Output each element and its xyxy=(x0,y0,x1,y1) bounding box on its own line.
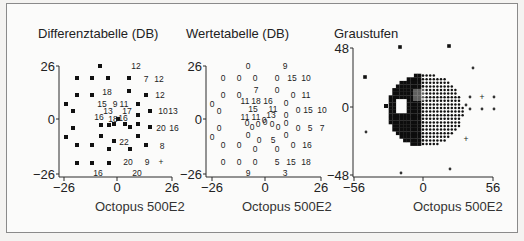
gray-cell xyxy=(443,78,446,81)
gray-cell xyxy=(436,92,439,95)
defect-square-marker xyxy=(148,125,152,129)
gray-cell xyxy=(436,89,439,92)
gray-cell xyxy=(436,128,439,131)
gray-cell xyxy=(433,132,436,135)
gray-cell xyxy=(392,103,396,107)
gray-cell xyxy=(429,96,432,99)
gray-cell xyxy=(403,131,407,135)
gray-cell xyxy=(451,107,454,110)
difference-value: 9 xyxy=(113,99,118,109)
gray-cell xyxy=(458,110,461,113)
defect-square-marker xyxy=(136,113,140,117)
gray-cell xyxy=(443,121,446,124)
gray-cell xyxy=(451,89,454,92)
gray-cell xyxy=(389,113,393,117)
gray-cell xyxy=(447,100,450,103)
gray-cell xyxy=(425,103,428,106)
difference-value: + xyxy=(159,157,164,167)
outlier-dot xyxy=(449,168,452,171)
gray-cell xyxy=(403,121,407,125)
gray-cell xyxy=(458,118,461,121)
gray-cell xyxy=(425,118,428,121)
gray-cell xyxy=(414,110,418,114)
gray-cell xyxy=(400,135,404,139)
gray-cell xyxy=(410,110,414,114)
gray-cell xyxy=(418,139,422,143)
gray-cell xyxy=(403,92,407,96)
gray-cell xyxy=(410,142,414,146)
gray-cell xyxy=(410,85,414,89)
gray-cell xyxy=(436,139,439,142)
gray-cell xyxy=(433,96,436,99)
threshold-value: 0 xyxy=(237,140,242,150)
gray-cell xyxy=(410,135,414,139)
gray-cell xyxy=(407,95,411,99)
outlier-square xyxy=(447,44,451,48)
outlier-dot xyxy=(481,108,484,111)
gray-cell xyxy=(436,132,439,135)
threshold-value: 7 xyxy=(254,85,259,95)
gray-cell xyxy=(392,92,396,96)
gray-cell xyxy=(422,114,425,117)
gray-cell xyxy=(400,121,404,125)
gray-cell xyxy=(400,117,404,121)
gray-cell xyxy=(458,100,461,103)
gray-cell xyxy=(433,82,436,85)
gray-cell xyxy=(422,85,425,88)
difference-value: 12 xyxy=(131,61,141,71)
gray-cell xyxy=(447,110,450,113)
gray-cell xyxy=(407,88,411,92)
gray-cell xyxy=(433,136,436,139)
gray-cell xyxy=(436,114,439,117)
gray-cell xyxy=(443,85,446,88)
gray-cell xyxy=(425,125,428,128)
outlier-dot xyxy=(472,67,475,70)
gray-cell xyxy=(410,121,414,125)
gray-cell xyxy=(425,92,428,95)
gray-cell xyxy=(436,82,439,85)
gray-cell xyxy=(443,118,446,121)
threshold-value: 7 xyxy=(320,123,325,133)
gray-cell xyxy=(440,92,443,95)
defect-square-marker xyxy=(127,76,131,80)
difference-value: 7 xyxy=(144,74,149,84)
gray-cell xyxy=(443,92,446,95)
gray-cell xyxy=(407,131,411,135)
gray-cell xyxy=(454,121,457,124)
gray-cell xyxy=(389,99,393,103)
gray-cell xyxy=(418,131,422,135)
gray-cell xyxy=(447,82,450,85)
difference-value: 13 xyxy=(168,106,178,116)
outlier-dot xyxy=(365,131,368,134)
defect-square-marker xyxy=(128,125,132,129)
gray-cell xyxy=(414,139,418,143)
gray-cell xyxy=(429,118,432,121)
gray-cell xyxy=(414,85,418,89)
defect-square-marker xyxy=(75,161,79,165)
gray-cell xyxy=(392,124,396,128)
gray-cell xyxy=(418,124,422,128)
gray-cell xyxy=(454,103,457,106)
gray-cell xyxy=(454,96,457,99)
outlier-plus: + xyxy=(464,134,469,144)
threshold-value: 3 xyxy=(283,168,288,178)
gray-cell xyxy=(458,96,461,99)
threshold-value: 10 xyxy=(301,73,311,83)
gray-cell xyxy=(396,88,400,92)
gray-cell xyxy=(440,114,443,117)
gray-cell xyxy=(447,125,450,128)
gray-cell xyxy=(433,143,436,146)
gray-cell xyxy=(429,100,432,103)
gray-cell xyxy=(433,74,436,77)
gray-cell xyxy=(429,103,432,106)
gray-cell xyxy=(422,78,425,81)
defect-square-marker xyxy=(144,93,148,97)
gray-cell xyxy=(443,136,446,139)
gray-cell xyxy=(425,85,428,88)
gray-cell xyxy=(436,103,439,106)
gray-cell xyxy=(392,106,396,110)
gray-cell xyxy=(418,135,422,139)
gray-cell xyxy=(454,114,457,117)
gray-cell xyxy=(433,85,436,88)
difference-value: 12 xyxy=(154,74,164,84)
